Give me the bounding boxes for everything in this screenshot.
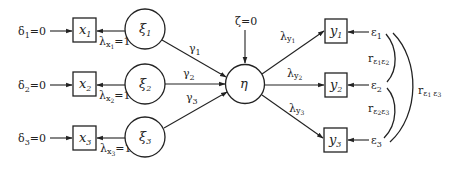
corr-e1-e3-label: rε1ε3: [418, 84, 441, 98]
lambda-x1-label: λx1=1: [99, 35, 131, 50]
zeta-label: ζ=0: [235, 15, 257, 28]
delta-1-label: δ1=0: [18, 25, 46, 40]
corr-e1-e2-curve: [386, 34, 395, 82]
lambda-y3-label: λy3: [289, 102, 305, 116]
epsilon-1-label: ε1: [371, 26, 382, 41]
svg-text:δ3=0: δ3=0: [18, 132, 46, 147]
sem-path-diagram: δ1=0 x1 λx1=1 ξ1 δ2=0 x2 λx2=1 ξ2 δ3=0 x…: [0, 0, 467, 169]
corr-e2-e3-label: rε2ε3: [368, 102, 389, 116]
gamma-2-label: γ2: [183, 67, 195, 82]
corr-e1-e2-label: rε1ε2: [368, 52, 389, 66]
svg-text:δ2=0: δ2=0: [18, 79, 46, 94]
gamma-1-label: γ1: [189, 42, 201, 57]
gamma-3-label: γ3: [186, 91, 198, 106]
epsilon-2-label: ε2: [371, 79, 382, 94]
delta-2-label: δ2=0: [18, 79, 46, 94]
eta-label: η: [240, 76, 248, 91]
delta-3-label: δ3=0: [18, 132, 46, 147]
lambda-y1-label: λy1: [280, 30, 295, 44]
epsilon-3-label: ε3: [371, 134, 382, 149]
svg-text:δ1=0: δ1=0: [18, 25, 46, 40]
lambda-y2-label: λy2: [287, 67, 303, 81]
